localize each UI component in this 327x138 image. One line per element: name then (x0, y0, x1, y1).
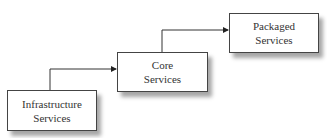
box-label-line2: Services (144, 72, 181, 86)
box-packaged-services: Packaged Services (229, 13, 319, 53)
box-label-line1: Core (152, 58, 173, 72)
box-label-line1: Packaged (253, 19, 295, 33)
box-core-services: Core Services (117, 52, 208, 92)
arrow-infrastructure-to-core (50, 69, 116, 90)
box-label-line2: Services (255, 33, 292, 47)
box-label-line1: Infrastructure (22, 97, 82, 111)
box-infrastructure-services: Infrastructure Services (7, 90, 97, 131)
box-label-line2: Services (33, 111, 70, 125)
arrow-core-to-packaged (162, 30, 228, 52)
